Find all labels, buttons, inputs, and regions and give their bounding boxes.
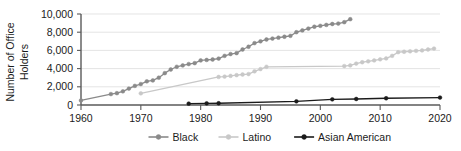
y-axis-title-line-1: Number of Office xyxy=(4,22,16,101)
series-point xyxy=(253,41,257,45)
y-axis-title-line-2: Holders xyxy=(18,44,30,80)
y-tick-label: 10,000 xyxy=(41,8,73,20)
legend-item-asian-american[interactable]: Asian American xyxy=(294,131,391,143)
legend-label: Asian American xyxy=(318,131,391,143)
x-tick-label: 2010 xyxy=(368,112,392,124)
legend-marker-icon xyxy=(226,135,231,140)
y-tick-label: 8,000 xyxy=(47,26,73,38)
chart-container: 02,0004,0006,0008,00010,000 196019701980… xyxy=(0,0,461,151)
series-point xyxy=(295,99,299,103)
series-point xyxy=(139,91,143,95)
series-point xyxy=(115,91,119,95)
series-point xyxy=(354,62,358,66)
legend-marker-icon xyxy=(156,135,161,140)
series-point xyxy=(247,72,251,76)
series-point xyxy=(402,50,406,54)
x-tick-labels: 1960197019801990200020102020 xyxy=(69,112,452,124)
series-point xyxy=(241,48,245,52)
series-point xyxy=(139,82,143,86)
legend-item-latino[interactable]: Latino xyxy=(219,131,272,143)
series-point xyxy=(432,47,436,51)
series-point xyxy=(151,79,155,83)
series-point xyxy=(217,57,221,61)
x-tick-label: 1990 xyxy=(249,112,273,124)
series-point xyxy=(336,22,340,26)
line-chart-figure: 02,0004,0006,0008,00010,000 196019701980… xyxy=(0,0,461,151)
y-axis-title: Number of Office Holders xyxy=(4,22,30,101)
series-point xyxy=(235,51,239,55)
series-point xyxy=(300,28,304,32)
x-tick-label: 2020 xyxy=(428,112,452,124)
series-point xyxy=(199,59,203,63)
axes xyxy=(77,14,440,110)
series-point xyxy=(283,35,287,39)
x-tick-label: 1960 xyxy=(69,112,93,124)
y-tick-label: 4,000 xyxy=(47,62,73,74)
series-point xyxy=(271,37,275,41)
series-point xyxy=(205,58,209,62)
x-tick-label: 2000 xyxy=(309,112,333,124)
series-point xyxy=(145,79,149,83)
series-point xyxy=(121,89,125,93)
series-point xyxy=(217,101,221,105)
series-point xyxy=(414,49,418,53)
legend-label: Latino xyxy=(243,131,272,143)
y-tick-label: 6,000 xyxy=(47,44,73,56)
series-asian-american xyxy=(187,96,442,106)
y-tick-label: 0 xyxy=(67,99,73,111)
series-point xyxy=(384,57,388,61)
series-point xyxy=(181,64,185,68)
series-point xyxy=(109,92,113,96)
series-point xyxy=(241,73,245,77)
series-point xyxy=(253,69,257,73)
series-point xyxy=(384,96,388,100)
series-point xyxy=(217,75,221,79)
series-point xyxy=(127,87,131,91)
series-point xyxy=(324,23,328,27)
series-point xyxy=(420,49,424,53)
series-point xyxy=(408,49,412,53)
series-black xyxy=(79,17,352,102)
series-point xyxy=(157,76,161,80)
series-point xyxy=(330,22,334,26)
series-point xyxy=(187,62,191,66)
series-point xyxy=(342,64,346,68)
legend-label: Black xyxy=(173,131,199,143)
series-line xyxy=(81,19,350,100)
series-point xyxy=(366,59,370,63)
series-point xyxy=(229,74,233,78)
series-point xyxy=(354,97,358,101)
series-point xyxy=(277,36,281,40)
series-point xyxy=(348,17,352,21)
series-point xyxy=(306,27,310,31)
series-point xyxy=(193,61,197,65)
data-series xyxy=(79,17,442,105)
series-point xyxy=(396,50,400,54)
series-point xyxy=(318,24,322,28)
series-point xyxy=(223,54,227,58)
gridlines xyxy=(81,14,440,87)
series-point xyxy=(295,30,299,34)
y-tick-label: 2,000 xyxy=(47,80,73,92)
series-point xyxy=(390,54,394,58)
legend-marker-icon xyxy=(302,135,307,140)
series-point xyxy=(79,99,83,103)
series-point xyxy=(247,45,251,49)
series-point xyxy=(259,67,263,71)
series-point xyxy=(312,25,316,29)
series-point xyxy=(169,68,173,72)
series-point xyxy=(265,38,269,42)
series-point xyxy=(175,65,179,69)
series-point xyxy=(163,71,167,75)
series-point xyxy=(438,96,442,100)
series-point xyxy=(378,57,382,61)
series-point xyxy=(265,65,269,69)
series-point xyxy=(289,34,293,38)
x-tick-label: 1970 xyxy=(129,112,153,124)
series-point xyxy=(223,75,227,79)
series-latino xyxy=(139,47,436,96)
chart-legend: BlackLatinoAsian American xyxy=(149,131,392,143)
series-point xyxy=(330,97,334,101)
legend-item-black[interactable]: Black xyxy=(149,131,199,143)
series-point xyxy=(229,52,233,56)
